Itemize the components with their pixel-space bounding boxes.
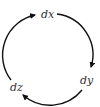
node-dy: dy — [80, 74, 94, 87]
node-dx: dx — [41, 8, 55, 21]
edge-dz-dx — [3, 15, 35, 80]
edge-dy-dz — [23, 90, 82, 105]
node-dz: dz — [10, 81, 23, 94]
cycle-diagram: dx dy dz — [0, 0, 100, 107]
edge-dx-dy — [57, 14, 93, 67]
